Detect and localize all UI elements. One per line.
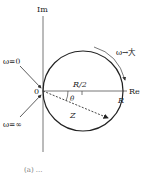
- omega-zero-arrow: [20, 66, 41, 88]
- figure-caption: (a) ...: [24, 166, 43, 173]
- omega-infinity-arrow: [20, 95, 41, 117]
- imaginary-axis-label: Im: [37, 5, 48, 14]
- diameter-label: R: [117, 96, 124, 105]
- omega-increase-label: ω→大: [116, 47, 136, 57]
- omega-infinity-label: ω=∞: [3, 120, 22, 129]
- origin-label: 0: [34, 87, 39, 96]
- theta-arc: [66, 91, 68, 101]
- nyquist-circle-diagram: Im Re 0 R/2 R Z θ ω=0 ω=∞ ω→大 (a) ...: [0, 0, 151, 173]
- z-label: Z: [69, 111, 76, 120]
- real-axis-label: Re: [129, 87, 140, 96]
- theta-label: θ: [70, 95, 75, 103]
- half-radius-label: R/2: [72, 80, 87, 89]
- omega-zero-label: ω=0: [3, 57, 20, 66]
